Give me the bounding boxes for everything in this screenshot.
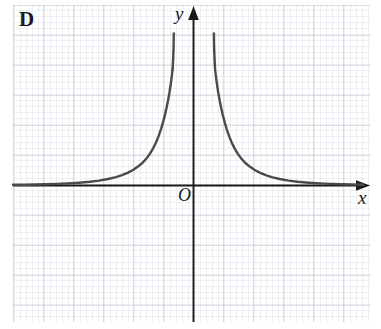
graph-figure: D y O x (0, 0, 381, 329)
y-axis-label: y (175, 4, 183, 23)
grid-background (13, 5, 370, 322)
panel-label: D (19, 9, 34, 30)
origin-label: O (178, 186, 191, 204)
curve-left-branch-tip (173, 34, 174, 70)
graph-canvas (0, 0, 381, 329)
x-axis-label: x (358, 188, 366, 207)
